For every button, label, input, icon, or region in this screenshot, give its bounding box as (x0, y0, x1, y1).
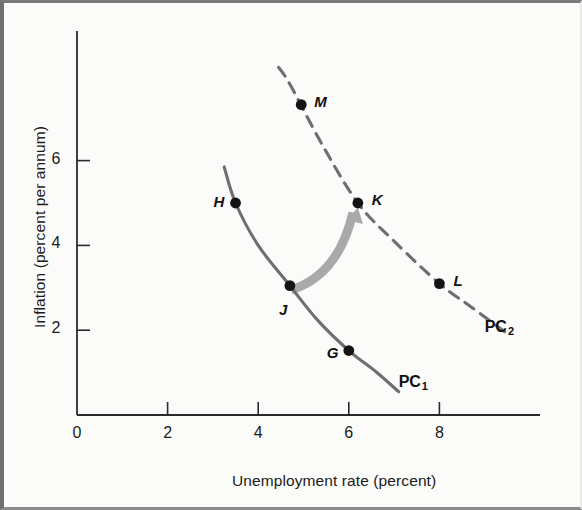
curve-label-subscript: 1 (421, 380, 428, 392)
point-label-J: J (279, 301, 287, 318)
y-tick-label: 4 (43, 234, 69, 252)
x-tick-label: 2 (155, 424, 181, 442)
curve-label-PC2: PC2 (485, 318, 514, 336)
data-point-markers (230, 99, 445, 356)
shift-arrow (291, 207, 363, 290)
phillips-curves (224, 67, 509, 391)
curve-label-PC1: PC1 (399, 373, 428, 391)
curve-label-text: PC (399, 373, 421, 390)
data-point-M (296, 99, 307, 110)
x-tick-label: 0 (64, 424, 90, 442)
point-label-K: K (372, 191, 383, 208)
y-axis-ticks (77, 161, 90, 331)
x-axis-title: Unemployment rate (percent) (232, 472, 436, 490)
y-axis-title: Inflation (percent per annum) (31, 99, 49, 355)
point-label-M: M (314, 93, 327, 110)
y-tick-label: 2 (43, 319, 69, 337)
shift-arrow-shaft (291, 212, 353, 290)
curve-label-subscript: 2 (507, 325, 514, 337)
data-point-G (343, 345, 354, 356)
x-tick-label: 8 (426, 424, 452, 442)
point-label-H: H (214, 193, 225, 210)
x-axis-ticks (168, 402, 440, 415)
curve-PC2 (279, 67, 510, 335)
data-point-J (285, 280, 296, 291)
data-point-K (352, 198, 363, 209)
point-label-L: L (453, 272, 462, 289)
data-point-L (434, 278, 445, 289)
x-tick-label: 4 (245, 424, 271, 442)
data-point-H (230, 198, 241, 209)
y-tick-label: 6 (43, 150, 69, 168)
point-label-G: G (327, 344, 339, 361)
phillips-curve-figure: Inflation (percent per annum) Unemployme… (0, 0, 582, 510)
curve-label-text: PC (485, 318, 507, 335)
x-tick-label: 6 (336, 424, 362, 442)
